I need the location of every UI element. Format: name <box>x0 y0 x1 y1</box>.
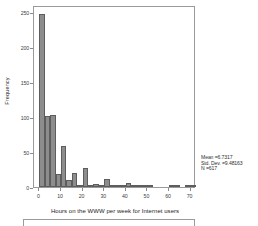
x-tick-label: 10 <box>50 193 70 199</box>
x-tick-mark <box>190 188 191 191</box>
y-tick-label: 0 <box>3 186 29 191</box>
x-tick-mark <box>146 188 147 191</box>
x-tick-mark <box>38 188 39 191</box>
x-tick-mark <box>125 188 126 191</box>
histogram-bar <box>191 185 196 187</box>
histogram-chart: Frequency 050100150200250 01020304050607… <box>0 0 258 226</box>
y-tick-label: 50 <box>3 151 29 156</box>
histogram-bar <box>147 185 152 187</box>
x-tick-label: 70 <box>180 193 200 199</box>
bar-group <box>34 7 194 187</box>
x-axis-title: Hours on the WWW per week for Internet u… <box>20 208 210 214</box>
x-tick-mark <box>103 188 104 191</box>
x-tick-label: 30 <box>93 193 113 199</box>
y-tick-label: 200 <box>3 46 29 51</box>
x-tick-mark <box>60 188 61 191</box>
stats-n: N =617 <box>201 166 257 172</box>
x-tick-label: 0 <box>28 193 48 199</box>
y-axis-title: Frequency <box>4 46 10 136</box>
x-tick-label: 50 <box>136 193 156 199</box>
x-axis: 010203040506070 <box>33 188 195 210</box>
y-axis: Frequency 050100150200250 <box>0 0 33 194</box>
x-tick-label: 40 <box>115 193 135 199</box>
x-tick-mark <box>82 188 83 191</box>
histogram-bar <box>174 185 179 187</box>
x-tick-mark <box>168 188 169 191</box>
x-tick-label: 60 <box>158 193 178 199</box>
y-tick-label: 150 <box>3 81 29 86</box>
plot-inner <box>34 7 194 187</box>
y-tick-label: 250 <box>3 11 29 16</box>
y-tick-label: 100 <box>3 116 29 121</box>
x-tick-label: 20 <box>72 193 92 199</box>
plot-area <box>33 6 195 188</box>
bottom-cropped-box <box>23 219 195 226</box>
stats-annotation: Mean =6.7317 Std. Dev. =9.48163 N =617 <box>201 155 257 172</box>
